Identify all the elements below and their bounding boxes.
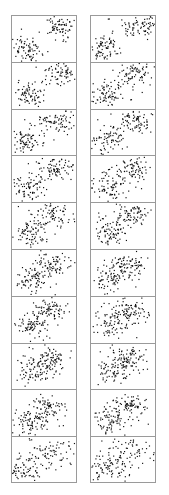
scatter-panel	[11, 15, 77, 62]
scatter-panel	[90, 343, 156, 390]
scatter-panel	[90, 109, 156, 156]
scatter-panel	[90, 62, 156, 109]
scatter-panel	[11, 62, 77, 109]
scatter-panel	[11, 109, 77, 156]
scatter-panel	[90, 296, 156, 343]
scatter-panel	[11, 249, 77, 296]
scatter-panel	[11, 343, 77, 390]
scatter-panel	[90, 389, 156, 436]
scatter-panel	[11, 296, 77, 343]
scatter-panel	[90, 202, 156, 249]
scatter-panel	[11, 202, 77, 249]
scatter-panel	[90, 155, 156, 202]
panel-column-left	[11, 15, 77, 483]
scatter-panel	[11, 436, 77, 483]
panel-column-right	[90, 15, 156, 483]
scatter-panel	[90, 15, 156, 62]
scatter-panel	[90, 436, 156, 483]
scatter-panel	[11, 389, 77, 436]
scatter-panel	[90, 249, 156, 296]
scatter-panel-figure	[0, 0, 169, 495]
scatter-panel	[11, 155, 77, 202]
